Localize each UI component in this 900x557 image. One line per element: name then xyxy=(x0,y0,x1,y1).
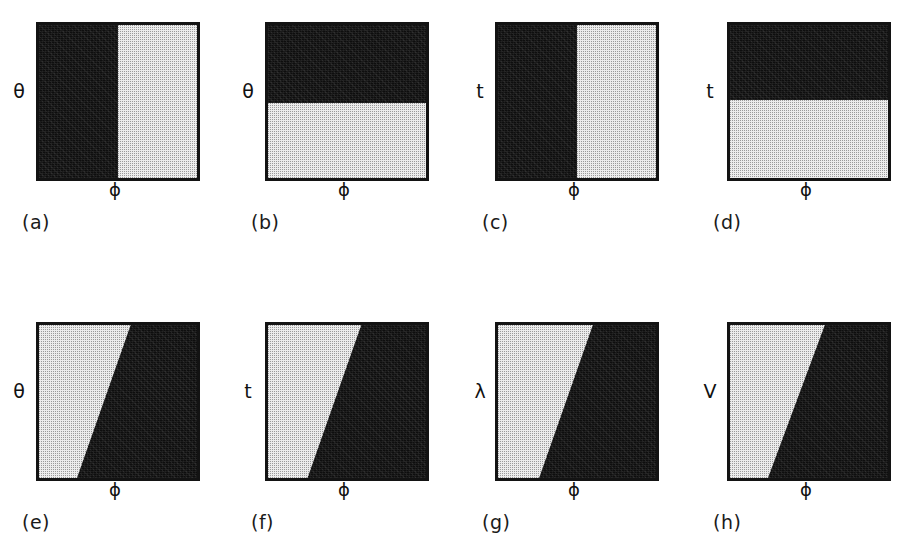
panel-f-letter: (f) xyxy=(251,512,274,532)
panel-c-ylabel: t xyxy=(467,82,493,101)
panel-d-xlabel: ϕ xyxy=(727,180,885,200)
panel-a-xlabel: ϕ xyxy=(36,180,194,200)
panel-d-light-region xyxy=(730,100,888,178)
panel-d: t ϕ (d) xyxy=(675,14,900,254)
panel-c: t ϕ (c) xyxy=(450,14,675,254)
panel-a-dark-region xyxy=(39,25,118,178)
panel-c-dark-region xyxy=(498,25,577,178)
panel-d-plot-box xyxy=(727,22,891,181)
panel-f-ylabel: t xyxy=(235,382,261,401)
panel-b-letter: (b) xyxy=(251,212,279,232)
panel-b-dark-region xyxy=(268,25,426,103)
panel-b-plot-box xyxy=(265,22,429,181)
panel-row-top: θ ϕ (a) θ ϕ (b) t ϕ (c) xyxy=(0,14,900,254)
panel-row-bottom: θ ϕ (e) t ϕ (f) λ ϕ (g) xyxy=(0,314,900,554)
panel-a-letter: (a) xyxy=(22,212,50,232)
panel-b-light-region xyxy=(268,103,426,178)
panel-e-ylabel: θ xyxy=(6,382,32,401)
panel-f: t ϕ (f) xyxy=(225,314,450,554)
figure-canvas: θ ϕ (a) θ ϕ (b) t ϕ (c) xyxy=(0,0,900,557)
panel-f-xlabel: ϕ xyxy=(265,480,423,500)
panel-e: θ ϕ (e) xyxy=(0,314,225,554)
panel-h-ylabel: V xyxy=(697,382,723,401)
panel-c-plot-box xyxy=(495,22,659,181)
panel-a-plot-box xyxy=(36,22,200,181)
panel-b-ylabel: θ xyxy=(235,82,261,101)
panel-f-plot-box xyxy=(265,322,429,481)
panel-c-letter: (c) xyxy=(482,212,509,232)
panel-h-plot-box xyxy=(727,322,891,481)
panel-g-ylabel: λ xyxy=(467,382,493,401)
panel-e-xlabel: ϕ xyxy=(36,480,194,500)
panel-g: λ ϕ (g) xyxy=(450,314,675,554)
panel-h-letter: (h) xyxy=(713,512,741,532)
panel-e-letter: (e) xyxy=(22,512,50,532)
panel-g-letter: (g) xyxy=(482,512,510,532)
panel-d-dark-region xyxy=(730,25,888,100)
panel-h-xlabel: ϕ xyxy=(727,480,885,500)
panel-a: θ ϕ (a) xyxy=(0,14,225,254)
panel-h: V ϕ (h) xyxy=(675,314,900,554)
panel-g-plot-box xyxy=(495,322,659,481)
panel-b: θ ϕ (b) xyxy=(225,14,450,254)
panel-c-xlabel: ϕ xyxy=(495,180,653,200)
panel-b-xlabel: ϕ xyxy=(265,180,423,200)
panel-c-light-region xyxy=(577,25,656,178)
panel-e-plot-box xyxy=(36,322,200,481)
panel-g-xlabel: ϕ xyxy=(495,480,653,500)
panel-d-ylabel: t xyxy=(697,82,723,101)
panel-a-light-region xyxy=(118,25,197,178)
panel-d-letter: (d) xyxy=(713,212,741,232)
panel-a-ylabel: θ xyxy=(6,82,32,101)
